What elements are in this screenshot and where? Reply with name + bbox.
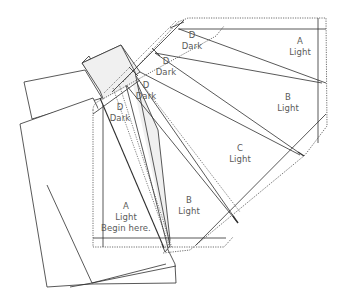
label-strip-b: B Light [178,195,200,217]
label-hex-d1: D Dark [182,30,203,52]
seam-bottom-thick [233,216,238,223]
label-hex-d2: D Dark [156,56,177,78]
label-hex-a: A Light [289,36,311,58]
label-hex-b: B Light [277,92,299,114]
label-hex-c: C Light [229,143,251,165]
label-strip-d: D Dark [110,102,131,124]
seam-cross-1 [152,48,160,56]
seam-d3-b [140,72,300,155]
label-strip-a: A Light Begin here. [101,201,151,234]
label-hex-d3: D Dark [136,80,157,102]
